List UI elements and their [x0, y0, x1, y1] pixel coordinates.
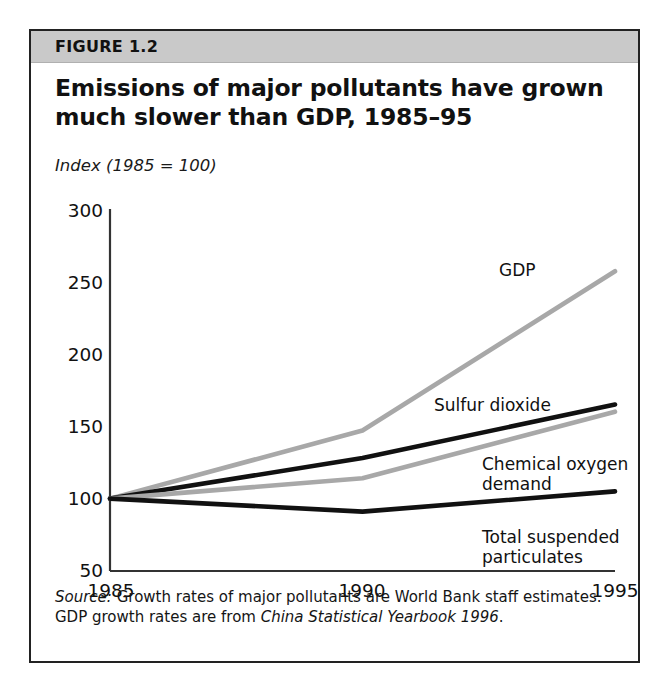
- figure-container: FIGURE 1.2 Emissions of major pollutants…: [29, 29, 640, 663]
- chart-axes: [110, 209, 615, 571]
- source-prefix: Source:: [55, 588, 112, 606]
- series-label-chemical-oxygen-demand: Chemical oxygen demand: [482, 455, 628, 494]
- source-citation: China Statistical Yearbook 1996: [261, 608, 499, 626]
- series-label-gdp: GDP: [499, 261, 536, 281]
- series-label-total-suspended-particulates: Total suspended particulates: [482, 528, 620, 567]
- y-tick-100: 100: [51, 488, 103, 509]
- y-tick-300: 300: [51, 200, 103, 221]
- series-label-sulfur-dioxide: Sulfur dioxide: [434, 396, 551, 416]
- source-note: Source: Growth rates of major pollutants…: [55, 587, 620, 627]
- y-tick-250: 250: [51, 272, 103, 293]
- y-tick-150: 150: [51, 416, 103, 437]
- chart-plot-area: 300 250 200 150 100 50 1985 1990 1995 GD…: [31, 31, 638, 661]
- source-text-part-2: .: [499, 608, 504, 626]
- y-tick-50: 50: [51, 560, 103, 581]
- y-tick-200: 200: [51, 344, 103, 365]
